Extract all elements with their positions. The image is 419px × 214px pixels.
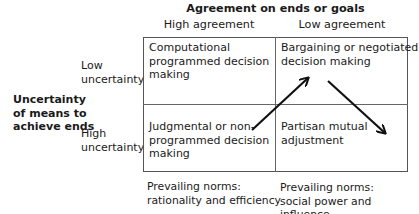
arrow-bargaining-to-partisan-icon xyxy=(328,81,385,133)
arrow-judgmental-to-bargaining-icon xyxy=(252,78,308,130)
arrows-layer xyxy=(0,0,419,214)
